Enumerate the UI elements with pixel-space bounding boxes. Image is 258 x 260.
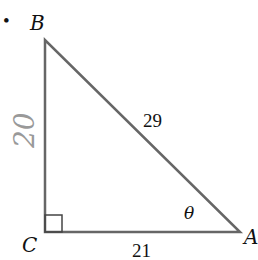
base-label: 21 bbox=[132, 240, 151, 260]
vertex-label-a: A bbox=[242, 225, 258, 249]
vertex-label-c: C bbox=[22, 233, 37, 257]
angle-theta-label: θ bbox=[184, 203, 194, 223]
handwritten-side-label: 20 bbox=[8, 112, 41, 149]
triangle bbox=[45, 40, 240, 232]
vertex-label-b: B bbox=[29, 11, 45, 35]
bullet: • bbox=[3, 10, 10, 31]
right-angle-marker bbox=[45, 215, 62, 232]
hypotenuse-label: 29 bbox=[143, 110, 162, 131]
right-triangle-diagram: • B C A 29 21 θ 20 bbox=[0, 0, 258, 260]
